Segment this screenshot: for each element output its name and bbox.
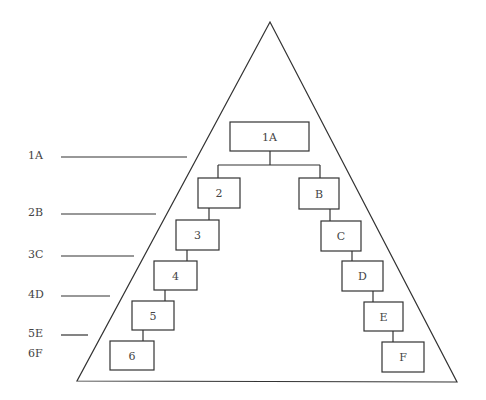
node-label: 2 [216, 187, 223, 200]
node-d: D [342, 261, 383, 291]
node-label: 3 [194, 229, 201, 242]
node-2: 2 [198, 178, 240, 208]
node-3: 3 [176, 220, 219, 250]
side-label: 1A [28, 149, 44, 162]
nodes: 1A23456BCDEF [110, 122, 424, 372]
hierarchy-pyramid-diagram: 1A2B3C4D5E6F 1A23456BCDEF [0, 0, 486, 400]
node-label: D [358, 270, 367, 283]
side-label: 3C [28, 248, 43, 261]
node-label: B [315, 188, 323, 201]
node-f: F [382, 342, 424, 372]
node-5: 5 [132, 301, 174, 330]
node-label: 4 [172, 270, 179, 283]
node-label: E [379, 311, 387, 324]
node-6: 6 [110, 341, 154, 370]
node-b: B [299, 178, 339, 209]
node-4: 4 [154, 261, 197, 290]
node-label: 6 [129, 350, 136, 363]
side-label: 6F [28, 347, 43, 360]
node-label: F [399, 351, 407, 364]
node-e: E [364, 302, 403, 331]
side-labels: 1A2B3C4D5E6F [28, 149, 44, 360]
side-label: 5E [28, 327, 43, 340]
node-c: C [321, 221, 361, 251]
node-label: C [337, 230, 345, 243]
node-label: 5 [150, 310, 157, 323]
node-1a: 1A [230, 122, 309, 151]
side-label: 4D [28, 288, 44, 301]
side-label: 2B [28, 206, 43, 219]
node-label: 1A [262, 131, 278, 144]
